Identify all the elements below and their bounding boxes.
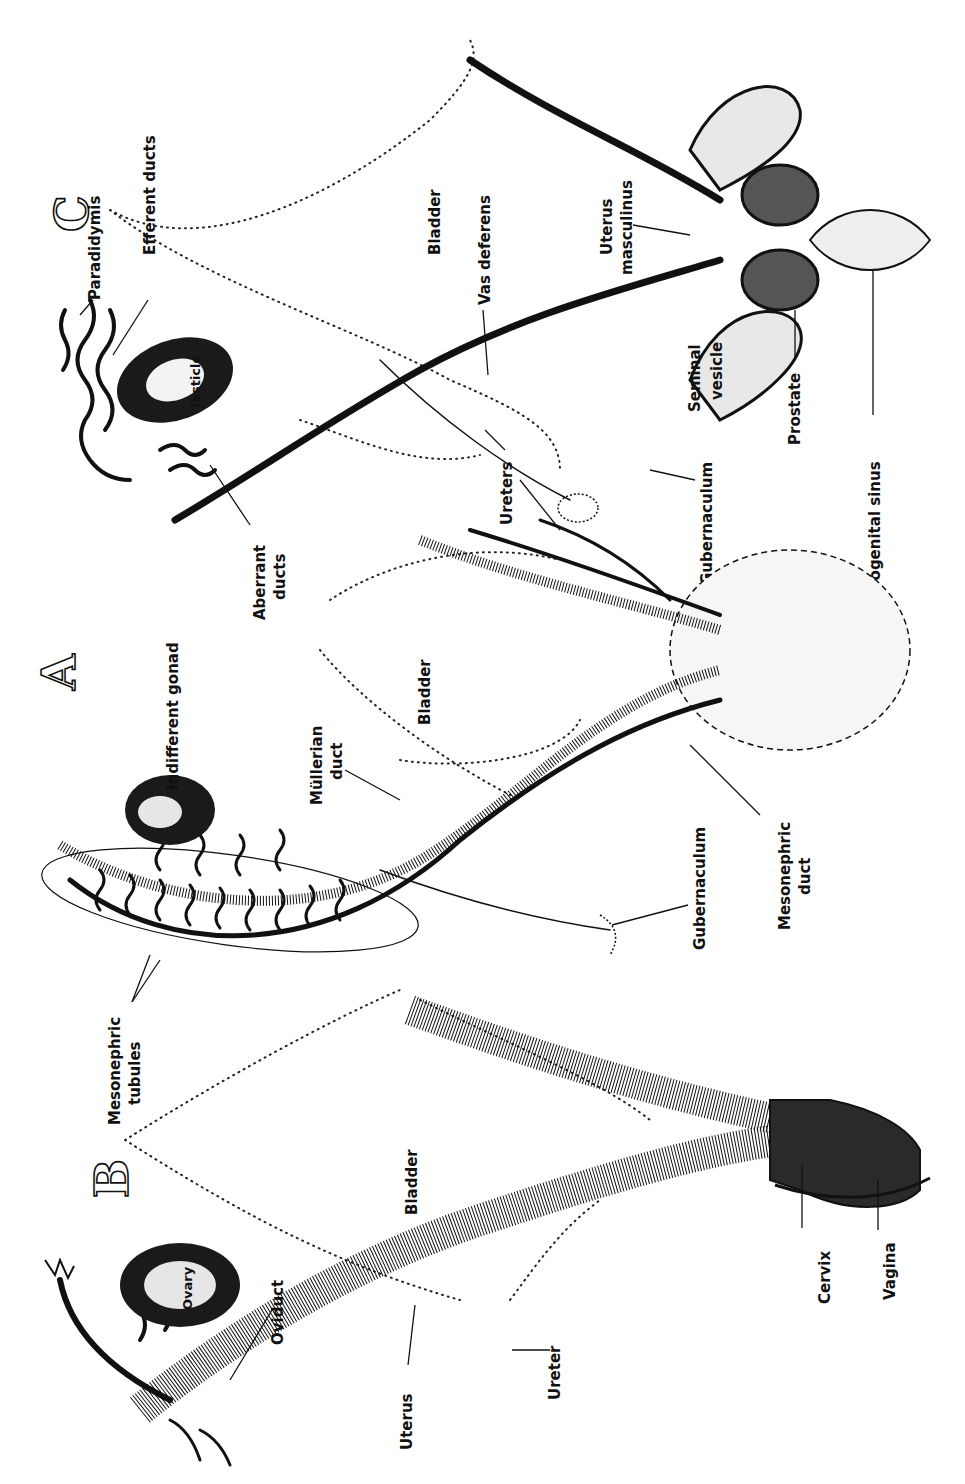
prostate-shape-2 — [742, 165, 818, 225]
vas-deferens-duct-2 — [470, 60, 720, 200]
label-mesonephric-tubules-1: Mesonephric — [106, 1017, 124, 1125]
label-testicle: Testicle — [188, 354, 203, 410]
ureter-b-stipple — [510, 1200, 600, 1300]
panel-letter-a: A — [32, 653, 86, 691]
label-oviduct: Oviduct — [269, 1280, 287, 1345]
panel-c: C Paradidymis Efferent ducts Bladder Vas… — [45, 40, 930, 620]
label-uterus-masculinus-1: Uterus — [598, 198, 616, 255]
label-bladder-b: Bladder — [403, 1149, 421, 1215]
label-ureters: Ureters — [498, 462, 516, 525]
leader-mullerian-duct — [345, 770, 400, 800]
label-efferent-ducts: Efferent ducts — [141, 135, 159, 255]
leader-ureters-2 — [520, 480, 560, 530]
label-mullerian-duct: duct — [328, 743, 346, 780]
vas-deferens-lumen — [175, 260, 720, 520]
aberrant-ducts — [160, 445, 215, 475]
oviduct-coil — [170, 1420, 230, 1465]
label-seminal: Seminal — [686, 344, 704, 412]
panel-letter-b: B — [85, 1159, 139, 1198]
genital-duct-diagram: C Paradidymis Efferent ducts Bladder Vas… — [0, 0, 965, 1484]
label-vagina: Vagina — [881, 1242, 899, 1300]
label-vesicle: vesicle — [708, 342, 726, 400]
label-vas-deferens: Vas deferens — [476, 195, 494, 305]
indifferent-gonad-highlight — [138, 796, 182, 828]
leader-gubernaculum-a — [612, 905, 688, 925]
label-mesonephric-duct-2: duct — [796, 858, 814, 895]
label-ducts: ducts — [271, 554, 289, 600]
label-mesonephric-tubules-2: tubules — [126, 1041, 144, 1105]
label-bladder-c: Bladder — [426, 189, 444, 255]
label-mesonephric-duct-1: Mesonephric — [776, 822, 794, 930]
label-ovary: Ovary — [180, 1266, 195, 1310]
leader-gubernaculum-c — [650, 470, 695, 480]
paradidymis-squiggle — [61, 310, 69, 370]
label-ureter: Ureter — [546, 1345, 564, 1400]
uterus-upper-horn — [410, 1010, 780, 1120]
leader-mesonephric-duct — [690, 745, 760, 815]
label-aberrant: Aberrant — [251, 545, 269, 620]
urogenital-sinus-c — [810, 210, 930, 270]
label-cervix: Cervix — [816, 1251, 834, 1304]
leader-uterus-masculinus — [633, 225, 690, 235]
bladder-a-outline — [320, 552, 580, 800]
label-prostate: Prostate — [786, 373, 804, 445]
leader-efferent-ducts — [113, 300, 148, 355]
label-paradidymis: Paradidymis — [86, 196, 104, 300]
panel-b: B Bladder Ovary Oviduct Uterus Ureter Ce… — [45, 990, 930, 1465]
leader-uterus — [408, 1305, 415, 1365]
vas-deferens-duct — [175, 260, 720, 520]
gubernaculum-a-fringe — [600, 915, 616, 955]
fimbriae — [45, 1260, 74, 1278]
label-gubernaculum-a: Gubernaculum — [691, 827, 709, 950]
efferent-ducts-2 — [98, 310, 115, 430]
prostate-shape — [742, 250, 818, 310]
urogenital-sinus-a — [670, 550, 910, 750]
leader-ureters-1 — [485, 430, 505, 450]
label-indifferent-gonad: Indifferent gonad — [164, 642, 182, 790]
label-gubernaculum-c: Gubernaculum — [698, 462, 716, 585]
label-uterus-masculinus-2: masculinus — [618, 180, 636, 275]
gubernaculum-c-fringe — [558, 494, 598, 522]
label-uterus: Uterus — [398, 1393, 416, 1450]
label-bladder-a: Bladder — [416, 659, 434, 725]
seminal-vesicle-shape — [690, 312, 801, 420]
label-mullerian: Müllerian — [308, 726, 326, 805]
